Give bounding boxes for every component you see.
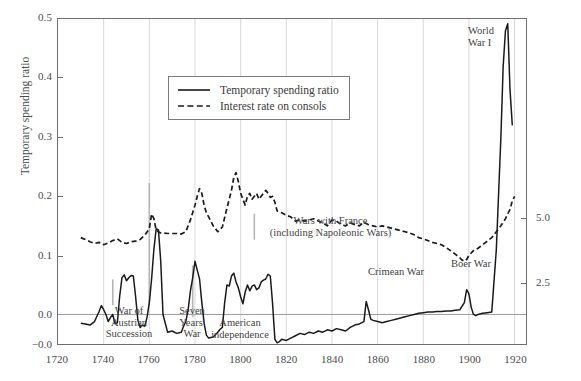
y-tick-label-left-3: 0.2 (18, 189, 52, 201)
series-canvas (58, 19, 526, 344)
legend-solid-line-icon (177, 85, 211, 95)
y-tick-label-left-5: 0.0 (18, 308, 52, 320)
annotation-pointers (113, 183, 255, 317)
tick-mark (58, 196, 63, 197)
x-tick-label-7: 1860 (353, 353, 403, 365)
tick-mark (58, 77, 63, 78)
chart-figure: Temporary spending ratio Interest rate (… (0, 0, 581, 381)
data-series (81, 24, 515, 343)
y-tick-label-left-2: 0.3 (18, 130, 52, 142)
chart-legend: Temporary spending ratio Interest rate o… (168, 76, 350, 120)
x-tick-label-3: 1780 (170, 353, 220, 365)
legend-label-0: Temporary spending ratio (220, 84, 339, 96)
x-tick-label-2: 1760 (124, 353, 174, 365)
series-line-0 (81, 24, 512, 343)
y-tick-label-right-1: 2.5 (536, 276, 570, 288)
legend-label-1: Interest rate on consols (220, 100, 326, 112)
x-tick-label-4: 1800 (215, 353, 265, 365)
y-tick-label-left-1: 0.4 (18, 70, 52, 82)
x-tick-label-5: 1820 (261, 353, 311, 365)
annotation-crimean-war: Crimean War (347, 266, 445, 278)
legend-dashed-line-icon (177, 101, 211, 111)
x-tick-label-0: 1720 (32, 353, 82, 365)
annotation-boer-war: Boer War (434, 258, 508, 270)
x-tick-label-6: 1840 (307, 353, 357, 365)
annotation-war-of-austrian-succession: War of Austrian Succession (86, 305, 172, 340)
x-tick-label-8: 1880 (399, 353, 449, 365)
tick-mark (58, 137, 63, 138)
legend-item-interest-rate-on-consols: Interest rate on consols (177, 98, 339, 114)
y-tick-label-left-4: 0.1 (18, 249, 52, 261)
tick-mark (521, 218, 526, 219)
y-tick-label-left-6: −0.0 (18, 338, 52, 350)
x-tick-label-1: 1740 (78, 353, 128, 365)
legend-item-temporary-spending-ratio: Temporary spending ratio (177, 82, 339, 98)
y-axis-label-left: Temporary spending ratio (19, 31, 31, 201)
plot-area: Temporary spending ratio Interest rate o… (57, 18, 527, 345)
tick-mark (58, 256, 63, 257)
annotation-american-independence: American independence (175, 317, 305, 340)
gridlines (104, 19, 515, 344)
tick-mark (521, 283, 526, 284)
x-tick-label-9: 1900 (445, 353, 495, 365)
annotation-world-war-i: World War I (468, 25, 527, 48)
y-tick-label-right-0: 5.0 (536, 211, 570, 223)
x-tick-label-10: 1920 (491, 353, 541, 365)
annotation-wars-with-france: Wars with France (including Napoleonic W… (258, 215, 403, 238)
y-tick-label-left-0: 0.5 (18, 11, 52, 23)
